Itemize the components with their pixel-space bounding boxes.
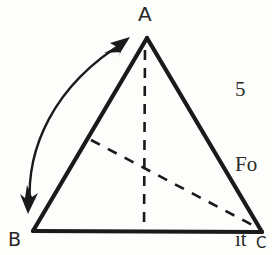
- note-line: it: [235, 227, 272, 252]
- vertex-label-b: B: [8, 230, 21, 249]
- margin-note-text: 5 Fo it (B tr: [235, 27, 272, 255]
- geometry-diagram-canvas: [0, 0, 272, 255]
- altitude-from-a-dashed-line: [144, 50, 145, 228]
- rotation-arrow-curve: [30, 41, 126, 206]
- side-bc-line: [33, 231, 262, 232]
- note-line: Fo: [235, 152, 272, 177]
- rotation-arrow-head-upper: [104, 37, 130, 58]
- vertex-label-a: A: [138, 4, 152, 24]
- note-line: 5: [235, 77, 272, 102]
